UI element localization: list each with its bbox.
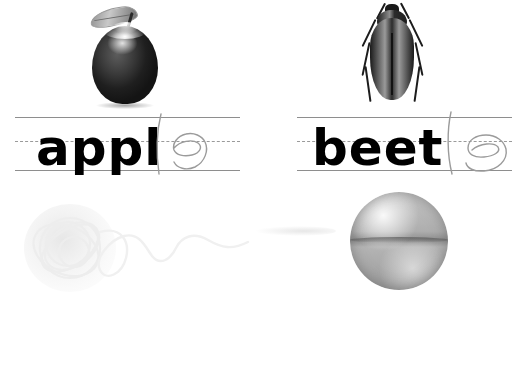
beetle-photo bbox=[344, 2, 440, 110]
picture-area-beetle bbox=[262, 0, 525, 112]
apple-photo bbox=[78, 4, 170, 110]
noodle-photo bbox=[18, 196, 268, 296]
panel-beetle: beet bbox=[262, 0, 525, 186]
worksheet-sheet: appl bbox=[0, 0, 525, 373]
picture-area-noodle bbox=[0, 186, 262, 298]
noodle-strand-icon bbox=[18, 196, 268, 296]
apple-shadow bbox=[96, 102, 154, 109]
panel-noodle: nood bbox=[0, 186, 262, 373]
word-typed-apple: appl bbox=[36, 123, 162, 173]
panel-bubble: bubb bbox=[262, 186, 525, 373]
word-typed-beetle: beet bbox=[312, 123, 444, 173]
bubble-photo bbox=[348, 190, 452, 294]
panel-apple: appl bbox=[0, 0, 262, 186]
word-traced-beetle bbox=[440, 108, 525, 178]
word-traced-apple bbox=[150, 108, 230, 178]
apple-highlight bbox=[112, 22, 140, 34]
picture-area-bubble bbox=[262, 186, 525, 298]
beetle-leg bbox=[414, 66, 421, 102]
apple-body-icon bbox=[92, 26, 158, 104]
picture-area-apple bbox=[0, 0, 262, 112]
bubble-sphere-icon bbox=[350, 192, 448, 290]
beetle-shell-icon bbox=[370, 18, 414, 100]
bubble-wisp bbox=[256, 226, 336, 236]
